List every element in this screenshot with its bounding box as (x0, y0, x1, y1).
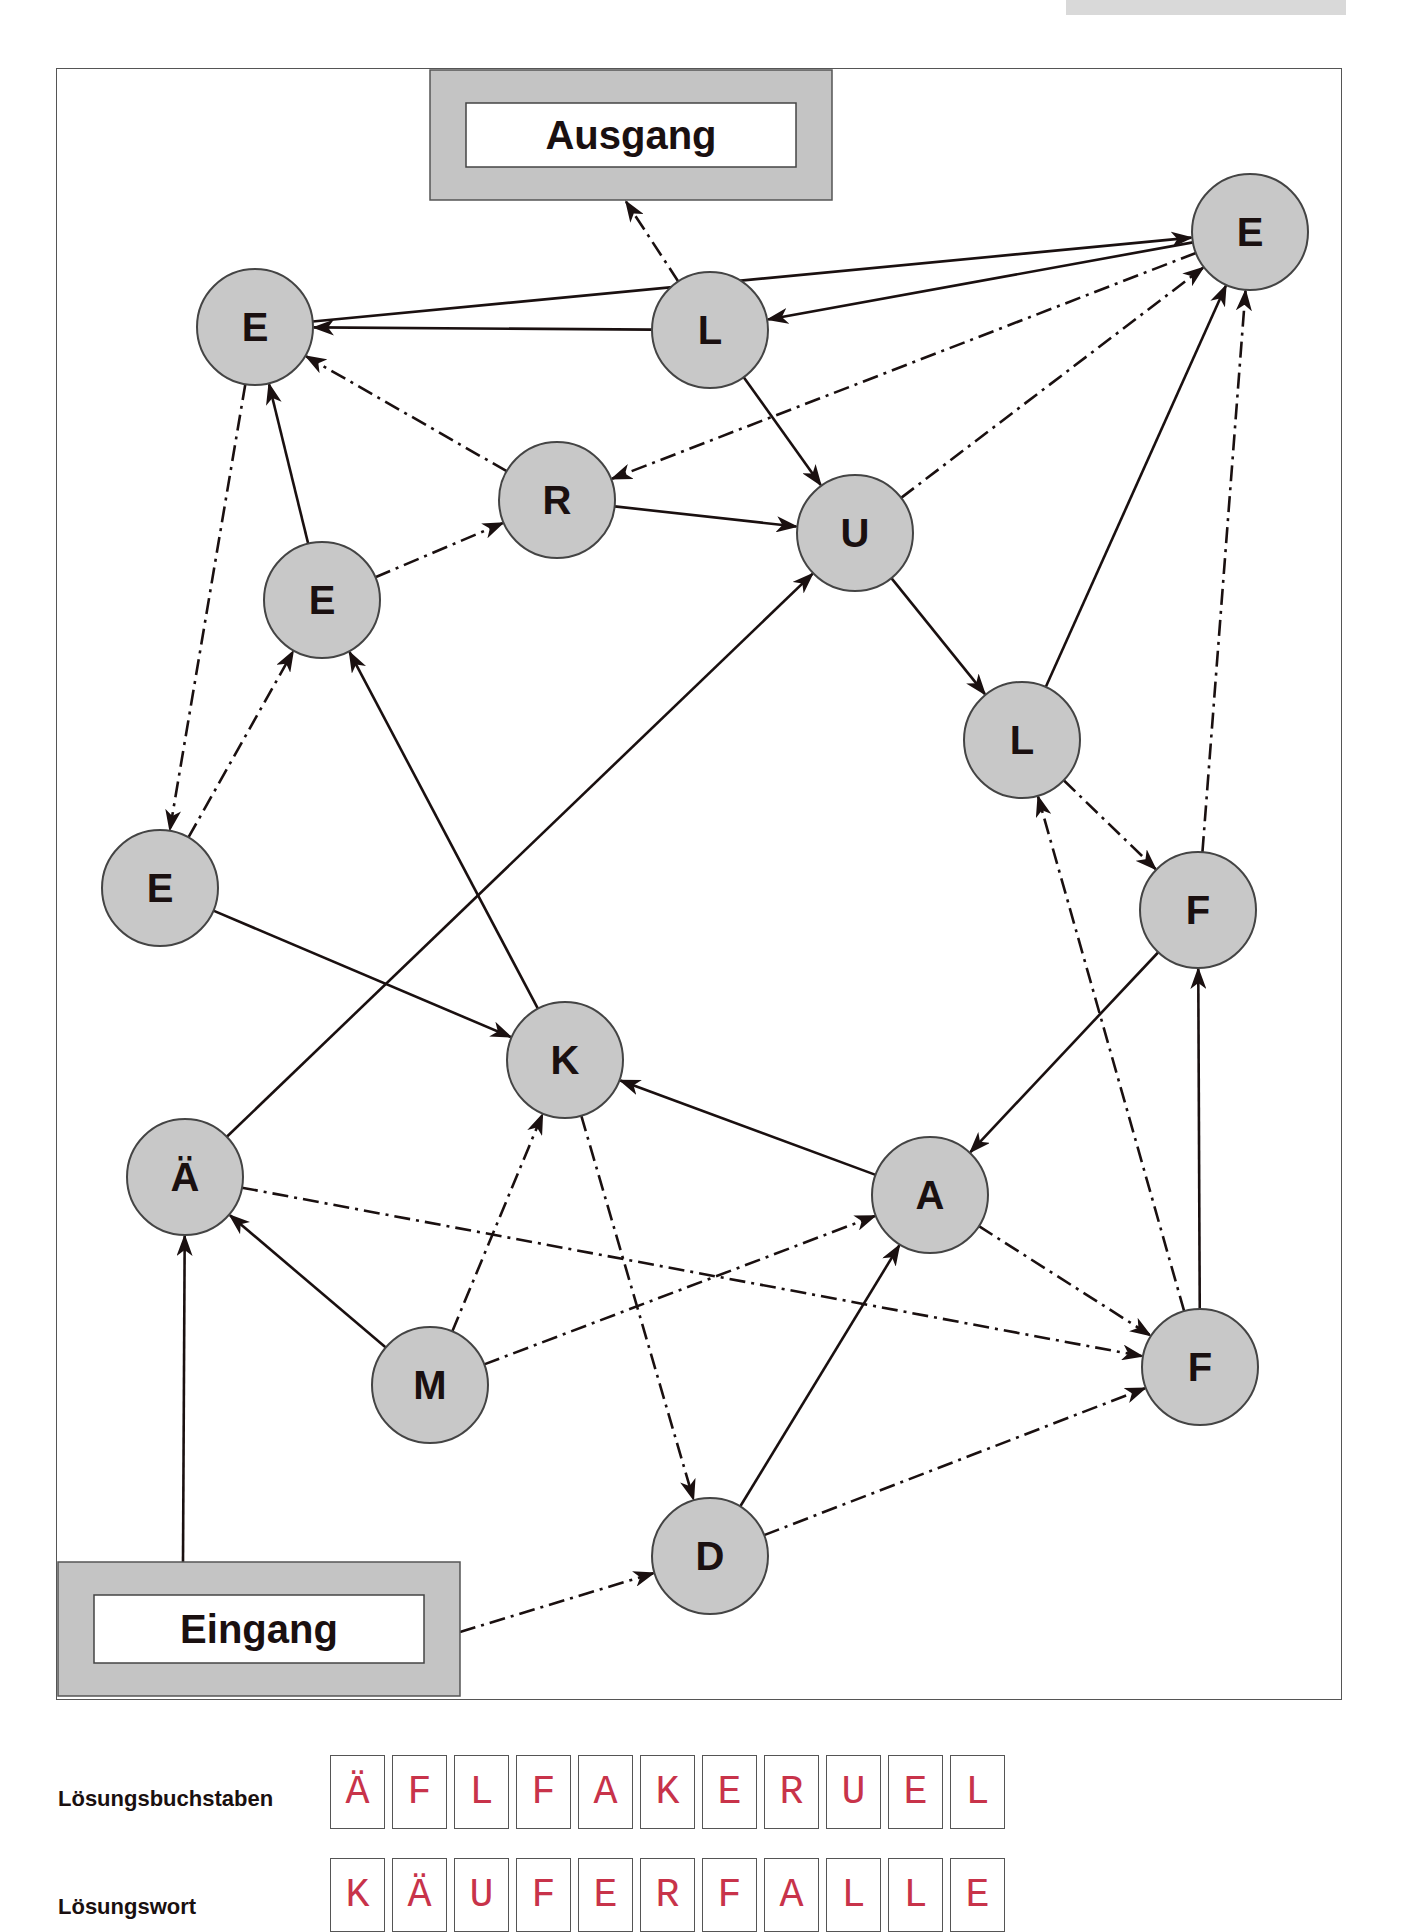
solution-letter-box: L (950, 1755, 1005, 1829)
edge-u-to-l2 (891, 578, 985, 694)
node-letter: L (1010, 718, 1034, 762)
maze-node-e3: E (264, 542, 380, 658)
node-letter: U (841, 511, 870, 555)
solution-word-letter-box: L (826, 1858, 881, 1932)
edge-a-to-f2 (979, 1226, 1150, 1335)
edge-e3-to-r (375, 523, 502, 577)
maze-node-d: D (652, 1498, 768, 1614)
node-letter: E (242, 305, 269, 349)
solution-word-letter-box: E (950, 1858, 1005, 1932)
solution-word-letter-box: F (516, 1858, 571, 1932)
solution-letter-box: R (764, 1755, 819, 1829)
maze-node-f1: F (1140, 852, 1256, 968)
solution-letter-box: Ä (330, 1755, 385, 1829)
entrance-gate-label: Eingang (180, 1607, 338, 1651)
edge-e3-to-e2 (269, 384, 308, 543)
edge-entrance_right-to-d (460, 1573, 654, 1632)
edge-r-to-u (615, 506, 797, 526)
solution-word-letter-box: Ä (392, 1858, 447, 1932)
edge-d-to-f2 (764, 1388, 1145, 1535)
solution-word-letter-box: K (330, 1858, 385, 1932)
solution-word-letter-box: U (454, 1858, 509, 1932)
solution-letter-box: E (888, 1755, 943, 1829)
node-letter: L (698, 308, 722, 352)
maze-node-a: A (872, 1137, 988, 1253)
node-letter: K (551, 1038, 580, 1082)
solution-letters-row: ÄFLFAKERUEL (330, 1755, 1005, 1829)
solution-letter-box: U (826, 1755, 881, 1829)
edge-e4-to-k (213, 911, 510, 1037)
maze-node-l2: L (964, 682, 1080, 798)
edge-l1-to-exit (626, 202, 678, 282)
node-letter: F (1186, 888, 1210, 932)
edge-l1-to-u (744, 377, 821, 485)
edge-m-to-a (484, 1216, 875, 1364)
solution-word-letter-box: F (702, 1858, 757, 1932)
solution-letter-box: A (578, 1755, 633, 1829)
edge-a-to-k (620, 1080, 875, 1174)
maze-diagram: AusgangEingang EELRUELEFKÄAMFD (0, 0, 1407, 1720)
maze-node-l1: L (652, 272, 768, 388)
edge-ae-to-f2 (242, 1188, 1142, 1356)
solution-letter-box: F (392, 1755, 447, 1829)
edge-u-to-e1 (901, 268, 1203, 498)
edge-m-to-ae (230, 1215, 386, 1347)
node-letter: E (1237, 210, 1264, 254)
edges-layer (170, 202, 1246, 1632)
solution-word-letter-box: L (888, 1858, 943, 1932)
node-letter: Ä (171, 1155, 200, 1199)
solution-letter-box: L (454, 1755, 509, 1829)
node-letter: R (543, 478, 572, 522)
solution-word-letter-box: A (764, 1858, 819, 1932)
exit-gate-label: Ausgang (545, 113, 716, 157)
node-letter: E (309, 578, 336, 622)
edge-m-to-k (452, 1114, 542, 1331)
node-letter: F (1188, 1345, 1212, 1389)
edge-k-to-d (581, 1116, 693, 1500)
edge-l2-to-e1 (1046, 286, 1226, 687)
edge-r-to-e2 (306, 356, 506, 471)
maze-node-e2: E (197, 269, 313, 385)
solution-word-label: Lösungswort (58, 1894, 196, 1920)
solution-word-letter-box: R (640, 1858, 695, 1932)
maze-node-m: M (372, 1327, 488, 1443)
solution-word-letter-box: E (578, 1858, 633, 1932)
maze-node-u: U (797, 475, 913, 591)
maze-node-e1: E (1192, 174, 1308, 290)
maze-node-r: R (499, 442, 615, 558)
node-letter: D (696, 1534, 725, 1578)
edge-e4-to-e3 (188, 651, 293, 837)
solution-letter-box: E (702, 1755, 757, 1829)
edge-f2-to-f1 (1198, 969, 1199, 1309)
maze-node-k: K (507, 1002, 623, 1118)
edge-f1-to-e1 (1202, 291, 1245, 852)
edge-l2-to-f1 (1064, 780, 1156, 869)
node-letter: E (147, 866, 174, 910)
node-letter: A (916, 1173, 945, 1217)
edge-l1-to-e2 (314, 327, 652, 329)
solution-letter-box: F (516, 1755, 571, 1829)
solution-word-row: KÄUFERFALLE (330, 1858, 1005, 1932)
maze-node-e4: E (102, 830, 218, 946)
solution-letter-box: K (640, 1755, 695, 1829)
nodes-layer: EELRUELEFKÄAMFD (102, 174, 1308, 1614)
edge-e2-to-e4 (170, 384, 245, 830)
edge-k-to-e3 (350, 652, 538, 1009)
maze-node-ae: Ä (127, 1119, 243, 1235)
solution-letters-label: Lösungsbuchstaben (58, 1786, 273, 1812)
node-letter: M (413, 1363, 446, 1407)
edge-e1-to-l1 (768, 242, 1193, 319)
edge-entrance_top-to-ae (183, 1236, 185, 1562)
maze-node-f2: F (1142, 1309, 1258, 1425)
